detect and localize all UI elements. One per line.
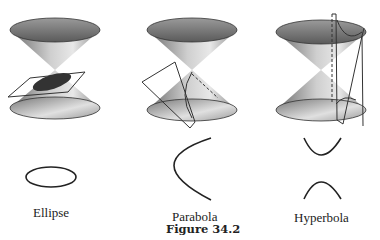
figure-caption: Figure 34.2 [166,222,240,236]
hyperbola-label: Hyperbola [294,210,349,226]
ellipse-curve [26,167,76,187]
hyperbola-cone [276,14,366,126]
conic-sections-diagram [0,0,380,240]
parabola-cone [142,18,237,128]
ellipse-label: Ellipse [33,205,69,221]
ellipse-cone [8,18,100,119]
hyperbola-upper-curve [304,138,341,155]
parabola-curve [174,138,211,200]
hyperbola-lower-curve [304,182,341,199]
